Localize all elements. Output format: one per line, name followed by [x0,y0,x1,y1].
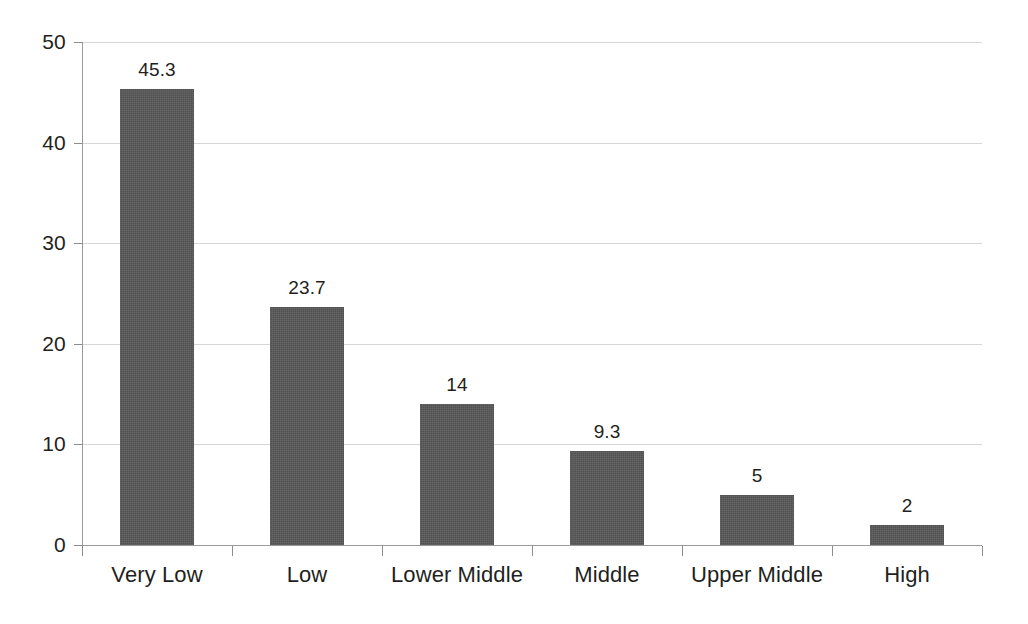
y-tick-label: 20 [6,333,66,354]
y-tick-label: 50 [6,31,66,52]
bar-value-label: 9.3 [547,422,667,441]
bar [870,525,944,545]
bar [720,495,794,545]
x-tick-mark [982,546,983,556]
bar [570,451,644,545]
y-tick-label: 40 [6,132,66,153]
bar-value-label: 14 [397,375,517,394]
bar-value-label: 2 [847,496,967,515]
x-tick-label: High [817,562,997,588]
bar-value-label: 23.7 [247,278,367,297]
bar-value-label: 45.3 [97,60,217,79]
plot-area [82,42,982,545]
x-tick-mark [682,546,683,556]
bar-value-label: 5 [697,466,817,485]
bar [120,89,194,545]
x-tick-mark [232,546,233,556]
y-tick-label: 30 [6,232,66,253]
bar [420,404,494,545]
x-tick-mark [832,546,833,556]
y-tick-label: 10 [6,433,66,454]
x-tick-mark [532,546,533,556]
y-tick-label: 0 [6,534,66,555]
x-tick-mark [382,546,383,556]
bar-chart: 01020304050 Very LowLowLower MiddleMiddl… [0,0,1028,624]
bar [270,307,344,545]
x-tick-mark [82,546,83,556]
